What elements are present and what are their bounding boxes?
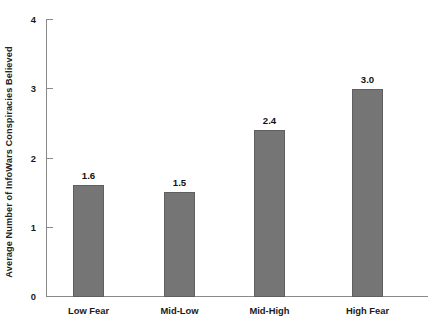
bar-chart: Average Number of InfoWars Conspiracies …	[0, 0, 432, 324]
y-tick-label-1: 1	[14, 223, 36, 232]
x-tick-label-low-fear: Low Fear	[53, 306, 124, 315]
x-tick-label-mid-low: Mid-Low	[144, 306, 215, 315]
y-tick-label-0: 0	[14, 292, 36, 301]
y-tick-label-4: 4	[14, 15, 36, 24]
bar-value-mid-high: 2.4	[244, 116, 295, 126]
y-tick-label-2: 2	[14, 154, 36, 163]
x-tick-label-mid-high: Mid-High	[234, 306, 305, 315]
y-tick-mark-3	[47, 88, 53, 89]
bar-value-high-fear: 3.0	[342, 75, 393, 85]
y-tick-label-3: 3	[14, 84, 36, 93]
bar-low-fear	[73, 185, 104, 297]
bar-value-low-fear: 1.6	[63, 171, 114, 181]
plot-area: 4 3 2 1 0 1.6 1.5 2.4 3.0 Low Fear Mid-L…	[46, 19, 428, 297]
bar-value-mid-low: 1.5	[154, 178, 205, 188]
y-tick-mark-0	[47, 296, 53, 297]
x-tick-label-high-fear: High Fear	[332, 306, 403, 315]
bar-high-fear	[352, 89, 383, 297]
bar-mid-low	[164, 192, 195, 297]
y-tick-mark-1	[47, 227, 53, 228]
bar-mid-high	[254, 130, 285, 297]
y-tick-mark-2	[47, 158, 53, 159]
y-tick-mark-4	[47, 19, 53, 20]
